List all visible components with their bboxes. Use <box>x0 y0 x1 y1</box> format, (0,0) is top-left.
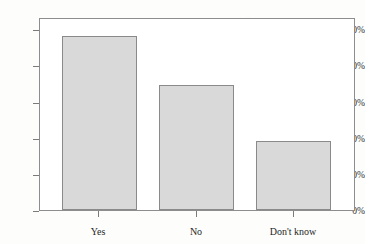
x-axis-tick-mark-no <box>196 211 197 217</box>
x-axis-tick-label-yes: Yes <box>91 226 106 238</box>
plot-frame <box>39 18 355 211</box>
x-axis-tick-mark-yes <box>98 211 99 217</box>
plot-area <box>40 19 354 210</box>
bar-no <box>159 85 234 210</box>
bar-chart: 50% 40% 30% 20% 10% 0% Yes No Don't know <box>0 0 365 244</box>
y-axis-tick-mark-0 <box>33 211 39 212</box>
x-axis-tick-label-no: No <box>190 226 202 238</box>
bar-dont-know <box>256 141 331 210</box>
x-axis-tick-label-dont-know: Don't know <box>270 226 317 238</box>
x-axis-tick-mark-dont-know <box>293 211 294 217</box>
bar-yes <box>62 36 137 210</box>
